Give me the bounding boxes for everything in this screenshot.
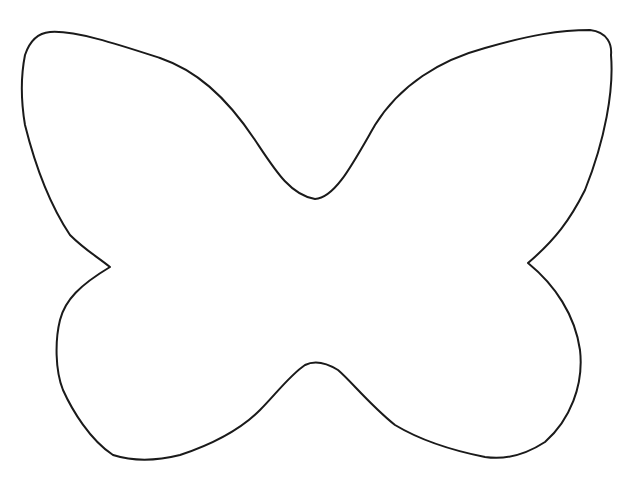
drawing-canvas: butterfly outline [0,0,638,491]
butterfly-outline [0,0,638,491]
butterfly-shape [22,30,612,460]
